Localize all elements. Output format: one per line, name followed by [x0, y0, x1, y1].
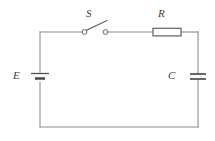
circuit-diagram-canvas: S R E C — [0, 0, 215, 141]
switch-right-contact-icon — [103, 30, 108, 35]
switch-symbol[interactable] — [82, 21, 108, 35]
circuit-schematic-svg — [0, 0, 215, 141]
capacitor-label: C — [168, 70, 175, 81]
battery-symbol — [31, 74, 49, 79]
switch-label: S — [86, 8, 92, 19]
resistor-box-icon — [153, 28, 181, 36]
resistor-symbol — [153, 28, 181, 36]
source-label: E — [13, 70, 20, 81]
resistor-label: R — [158, 8, 165, 19]
switch-lever-icon — [86, 21, 107, 31]
capacitor-symbol — [190, 74, 206, 79]
